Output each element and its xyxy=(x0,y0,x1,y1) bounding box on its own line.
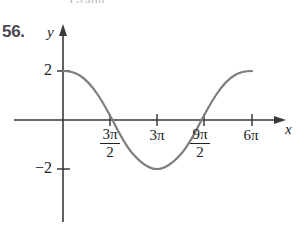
fraction-numerator: 3π xyxy=(100,127,119,144)
exercise-figure: Graph 56. y x 2 −2 3π 2 3π 9π 2 xyxy=(0,0,306,227)
x-tick-label-3pi-over-2: 3π 2 xyxy=(92,127,128,161)
graph-canvas xyxy=(0,0,306,227)
y-axis-label: y xyxy=(47,24,54,41)
fraction-denominator: 2 xyxy=(100,144,119,160)
y-tick-label-minus-2: −2 xyxy=(20,159,52,177)
exercise-number: 56. xyxy=(2,22,25,42)
x-tick-label-9pi-over-2: 9π 2 xyxy=(182,127,218,161)
y-axis-arrow-icon xyxy=(59,24,67,36)
y-tick-label-2: 2 xyxy=(30,61,52,79)
x-tick-label-3pi: 3π xyxy=(138,128,176,144)
fraction-denominator: 2 xyxy=(190,144,209,160)
fraction-3pi-over-2: 3π 2 xyxy=(100,127,119,160)
x-tick-label-6pi: 6π xyxy=(231,128,271,144)
x-axis-label: x xyxy=(285,121,292,138)
cut-off-header-text: Graph xyxy=(70,0,270,3)
fraction-9pi-over-2: 9π 2 xyxy=(190,127,209,160)
fraction-numerator: 9π xyxy=(190,127,209,144)
